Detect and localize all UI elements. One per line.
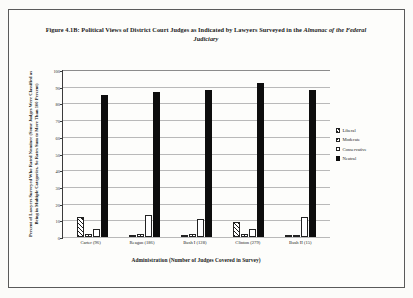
- bar-conservative: [301, 217, 308, 237]
- bar-group: [233, 70, 264, 237]
- bar-neutral: [205, 90, 212, 237]
- bar-group: [129, 70, 160, 237]
- legend-label: Liberal: [342, 128, 355, 133]
- x-axis-tick: Bush II (15): [289, 240, 311, 245]
- y-axis-label: Percent of Lawyers Surveyed Who Rated No…: [28, 70, 50, 238]
- bar-liberal: [77, 217, 84, 237]
- legend-swatch-conservative: [336, 147, 340, 151]
- bar-moderate: [241, 234, 248, 237]
- bar-groups: [63, 70, 330, 237]
- bar-group: [77, 70, 108, 237]
- legend-swatch-moderate: [336, 138, 340, 142]
- x-axis-label: Administration (Number of Judges Covered…: [62, 257, 330, 263]
- legend-label: Conservative: [342, 147, 366, 152]
- x-axis-tick: Bush I (128): [183, 240, 206, 245]
- bar-group: [285, 70, 316, 237]
- bar-conservative: [197, 219, 204, 237]
- bar-conservative: [93, 229, 100, 237]
- bar-liberal: [233, 222, 240, 237]
- chart-legend: LiberalModerateConservativeNeutral: [336, 128, 367, 161]
- bar-liberal: [181, 235, 188, 237]
- legend-item-conservative: Conservative: [336, 147, 367, 152]
- bar-moderate: [293, 235, 300, 237]
- bar-neutral: [257, 83, 264, 237]
- legend-swatch-neutral: [336, 156, 340, 160]
- legend-label: Neutral: [342, 156, 356, 161]
- legend-item-neutral: Neutral: [336, 156, 367, 161]
- legend-swatch-liberal: [336, 128, 340, 132]
- legend-item-moderate: Moderate: [336, 137, 367, 142]
- gridline: 0: [63, 237, 330, 238]
- legend-label: Moderate: [342, 137, 360, 142]
- bar-conservative: [145, 215, 152, 237]
- x-axis-tick: Clinton (279): [235, 240, 260, 245]
- bar-neutral: [101, 95, 108, 237]
- figure-page: Figure 4.1B: Political Views of District…: [0, 0, 413, 298]
- bar-moderate: [137, 234, 144, 237]
- bar-moderate: [189, 234, 196, 237]
- bar-moderate: [85, 234, 92, 237]
- legend-item-liberal: Liberal: [336, 128, 367, 133]
- x-axis-tick: Reagan (186): [130, 240, 155, 245]
- x-axis-tick-labels: Carter (96)Reagan (186)Bush I (128)Clint…: [62, 240, 330, 245]
- plot-area: 0102030405060708090100: [62, 70, 330, 238]
- bar-neutral: [309, 90, 316, 237]
- bar-liberal: [129, 235, 136, 237]
- bar-conservative: [249, 229, 256, 237]
- figure-title: Figure 4.1B: Political Views of District…: [38, 26, 374, 43]
- figure-title-line-1: Figure 4.1B: Political Views of District…: [46, 26, 302, 33]
- y-axis-tick-mark: [60, 238, 63, 239]
- bar-liberal: [285, 235, 292, 237]
- bar-neutral: [153, 92, 160, 237]
- bar-group: [181, 70, 212, 237]
- y-axis-tick: 100: [53, 69, 60, 74]
- x-axis-tick: Carter (96): [80, 240, 100, 245]
